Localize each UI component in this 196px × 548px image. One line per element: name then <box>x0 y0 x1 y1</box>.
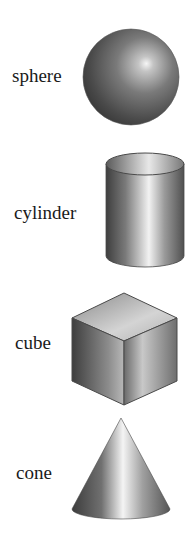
cube-shape <box>72 293 177 405</box>
cylinder-shape <box>106 153 184 267</box>
sphere-shape <box>83 29 179 125</box>
cone-shape <box>72 418 170 519</box>
